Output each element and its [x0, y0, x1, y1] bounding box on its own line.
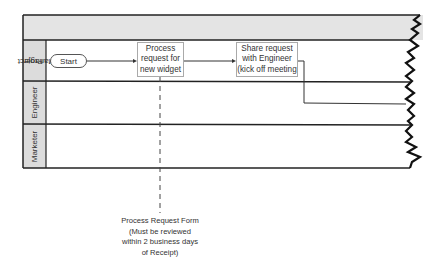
node-label-line: with Engineer [237, 54, 296, 65]
node-label-line: request for [140, 54, 181, 65]
annotation-line: Process Request Form [110, 216, 210, 227]
annotation-note: Process Request Form (Must be reviewed w… [110, 216, 210, 258]
annotation-line: within 2 business days [110, 237, 210, 248]
start-label: Start [60, 57, 77, 66]
node-label-line: (kick off meeting [237, 65, 296, 76]
diagram-lines [0, 0, 436, 269]
node-label-line: new widget [140, 65, 181, 76]
title-bar-fill [23, 15, 420, 40]
process-request-node[interactable]: Process request for new widget [137, 42, 184, 77]
node-label-line: Process [140, 44, 181, 55]
share-request-node[interactable]: Share request with Engineer (kick off me… [236, 42, 298, 77]
start-node[interactable]: Start [50, 54, 87, 68]
node-label-line: Share request [237, 44, 296, 55]
annotation-line: (Must be reviewed [110, 227, 210, 238]
annotation-line: of Receipt) [110, 248, 210, 259]
